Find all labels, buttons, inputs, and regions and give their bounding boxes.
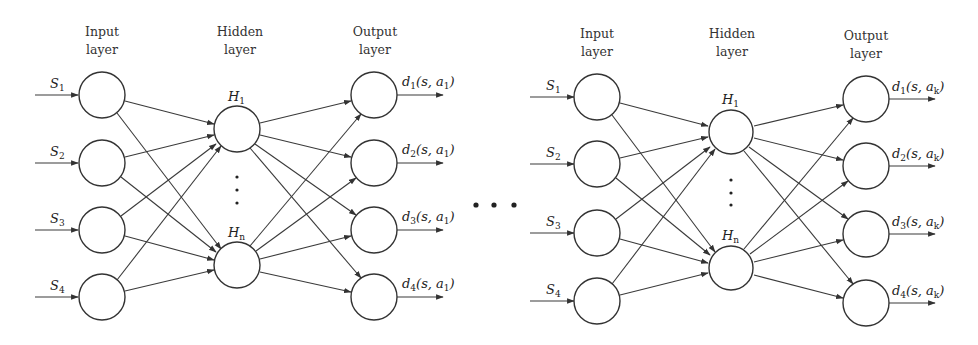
input-label-s2: S2 [50, 144, 65, 161]
network-ak: Input layer Hidden layer Output layer S1… [530, 26, 944, 326]
output-label-d3: d3(s, a1) [402, 209, 455, 226]
input-label-s4: S4 [50, 278, 65, 295]
hidden-label-h1: H1 [721, 92, 739, 109]
output-label-d2: d2(s, ak) [892, 146, 944, 163]
output-node [843, 280, 889, 326]
input-label-s1: S1 [546, 78, 561, 95]
input-label-s1: S1 [50, 76, 65, 93]
input-node [79, 72, 125, 118]
input-node [574, 210, 620, 256]
output-label-d2: d2(s, a1) [402, 142, 455, 159]
output-layer-title-line1: Output [353, 24, 397, 39]
output-node [843, 76, 889, 122]
input-hidden-edges [117, 101, 221, 291]
hidden-layer-title-line2: layer [224, 42, 256, 57]
output-node [843, 143, 889, 189]
output-label-d1: d1(s, ak) [892, 79, 944, 96]
output-node [351, 274, 397, 320]
hidden-layer-title-line2: layer [716, 44, 748, 59]
output-layer-title-line2: layer [850, 46, 882, 61]
hidden-output-edges [250, 101, 361, 292]
output-node [351, 207, 397, 253]
hidden-layer-title-line1: Hidden [217, 24, 263, 39]
networks-ellipsis [473, 202, 516, 207]
input-node [79, 140, 125, 186]
input-node [574, 141, 620, 187]
input-layer-title-line2: layer [86, 42, 118, 57]
input-label-s3: S3 [546, 214, 561, 231]
input-label-s3: S3 [50, 211, 65, 228]
input-hidden-edges [612, 103, 715, 295]
hidden-node-hn [214, 242, 260, 288]
hidden-node-h1 [214, 106, 260, 152]
neural-network-diagram: Input layer Hidden layer Output layer S1… [0, 0, 978, 345]
hidden-node-h1 [709, 110, 753, 154]
hidden-label-h1: H1 [227, 89, 245, 106]
output-node [351, 72, 397, 118]
output-layer-title-line1: Output [844, 28, 888, 43]
network-a1: Input layer Hidden layer Output layer S1… [35, 24, 455, 320]
output-node [351, 140, 397, 186]
input-layer-title-line1: Input [580, 26, 614, 41]
input-node [79, 274, 125, 320]
hidden-ellipsis [235, 175, 238, 204]
input-label-s4: S4 [546, 282, 561, 299]
output-label-d1: d1(s, a1) [402, 74, 455, 91]
hidden-output-edges [744, 105, 853, 298]
output-label-d4: d4(s, ak) [892, 283, 944, 300]
hidden-node-hn [709, 246, 753, 290]
input-node [574, 74, 620, 120]
hidden-ellipsis [729, 178, 732, 206]
input-node [574, 278, 620, 324]
output-layer-title-line2: layer [359, 42, 391, 57]
output-label-d3: d3(s, ak) [892, 214, 944, 231]
output-node [843, 211, 889, 257]
hidden-layer-title-line1: Hidden [709, 26, 755, 41]
input-layer-title-line2: layer [581, 44, 613, 59]
input-node [79, 207, 125, 253]
input-layer-title-line1: Input [85, 24, 119, 39]
hidden-label-hn: Hn [227, 225, 245, 242]
hidden-label-hn: Hn [721, 228, 739, 245]
input-label-s2: S2 [546, 145, 561, 162]
output-label-d4: d4(s, a1) [402, 276, 455, 293]
